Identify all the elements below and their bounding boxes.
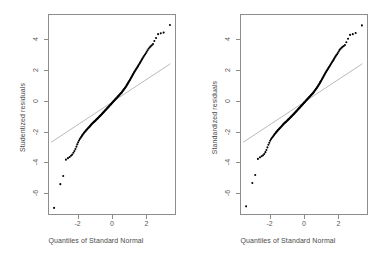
plot-area-left — [49, 15, 175, 214]
data-point — [355, 32, 357, 34]
y-tick-mark — [44, 193, 48, 194]
y-axis-title-left: Studentized residuals — [19, 53, 26, 183]
x-tick-label: -2 — [262, 220, 278, 228]
data-point — [75, 146, 77, 148]
data-point — [268, 142, 270, 144]
x-axis-title-left: Quantiles of Standard Normal — [0, 237, 192, 244]
data-point — [74, 148, 76, 150]
data-point — [245, 205, 247, 207]
data-point — [62, 175, 64, 177]
x-tick-mark — [270, 215, 271, 219]
y-tick-mark — [44, 162, 48, 163]
data-point — [163, 32, 165, 34]
x-tick-label: 2 — [138, 220, 154, 228]
data-point — [77, 141, 79, 143]
y-tick-label: 0 — [32, 95, 40, 107]
data-point — [53, 207, 55, 209]
y-tick-label: -6 — [224, 187, 232, 199]
y-tick-mark — [236, 162, 240, 163]
y-tick-label: -4 — [224, 156, 232, 168]
y-tick-label: 2 — [32, 64, 40, 76]
y-tick-label: 2 — [224, 64, 232, 76]
data-point — [160, 32, 162, 34]
data-point — [157, 33, 159, 35]
y-tick-mark — [44, 70, 48, 71]
data-point — [65, 159, 67, 161]
y-tick-mark — [236, 39, 240, 40]
x-tick-mark — [112, 215, 113, 219]
data-point — [76, 143, 78, 145]
data-point — [73, 150, 75, 152]
y-tick-mark — [44, 132, 48, 133]
y-tick-mark — [236, 193, 240, 194]
data-point — [72, 152, 74, 154]
data-point — [254, 174, 256, 176]
data-point-group — [53, 24, 171, 209]
x-tick-mark — [338, 215, 339, 219]
y-tick-mark — [236, 132, 240, 133]
data-point — [266, 146, 268, 148]
x-tick-mark — [78, 215, 79, 219]
y-tick-mark — [44, 39, 48, 40]
y-tick-label: -2 — [32, 126, 40, 138]
data-point — [263, 153, 265, 155]
data-point — [361, 24, 363, 26]
y-tick-mark — [44, 101, 48, 102]
data-point — [59, 183, 61, 185]
data-point — [71, 154, 73, 156]
data-point — [257, 158, 259, 160]
y-tick-label: 4 — [32, 33, 40, 45]
data-point — [347, 38, 349, 40]
data-point — [265, 149, 267, 151]
x-axis-title-right: Quantiles of Standard Normal — [192, 237, 384, 244]
x-tick-label: 0 — [296, 220, 312, 228]
plot-frame-right — [240, 14, 368, 215]
data-point-group — [245, 24, 363, 207]
data-point — [169, 24, 171, 26]
y-tick-label: 4 — [224, 33, 232, 45]
data-point — [152, 43, 154, 45]
y-tick-label: -2 — [224, 126, 232, 138]
x-tick-label: 0 — [104, 220, 120, 228]
data-point — [344, 44, 346, 46]
x-tick-mark — [146, 215, 147, 219]
data-point — [349, 34, 351, 36]
data-point — [345, 41, 347, 43]
plot-area-right — [241, 15, 367, 214]
y-tick-mark — [236, 70, 240, 71]
scatter-canvas-left — [49, 15, 175, 214]
y-tick-label: -6 — [32, 187, 40, 199]
plot-frame-left — [48, 14, 176, 215]
scatter-canvas-right — [241, 15, 367, 214]
qq-plot-panel-left: 420-2-4-6 -202 Quantiles of Standard Nor… — [0, 0, 192, 265]
x-tick-label: 2 — [330, 220, 346, 228]
data-point — [264, 151, 266, 153]
data-point — [352, 33, 354, 35]
data-point — [155, 37, 157, 39]
y-axis-title-right: Standardized residuals — [211, 53, 218, 183]
data-point — [251, 182, 253, 184]
qq-plot-panel-right: 420-2-4-6 -202 Quantiles of Standard Nor… — [192, 0, 384, 265]
data-point — [153, 40, 155, 42]
y-tick-label: -4 — [32, 156, 40, 168]
y-tick-label: 0 — [224, 95, 232, 107]
x-tick-mark — [304, 215, 305, 219]
data-point — [267, 144, 269, 146]
qq-plot-figure: 420-2-4-6 -202 Quantiles of Standard Nor… — [0, 0, 384, 265]
x-tick-label: -2 — [70, 220, 86, 228]
y-tick-mark — [236, 101, 240, 102]
